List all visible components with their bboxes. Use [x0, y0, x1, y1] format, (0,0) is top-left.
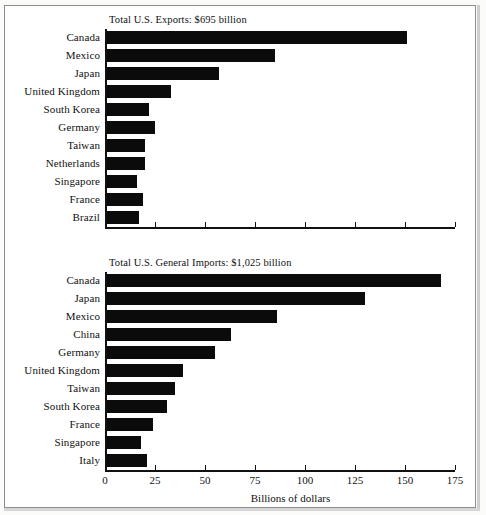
exports-category-label: Taiwan [4, 137, 100, 154]
exports-category-label: Canada [4, 29, 100, 46]
imports-category-label: United Kingdom [4, 362, 100, 379]
bar-track [105, 29, 460, 46]
x-axis-tick-label: 75 [250, 474, 261, 487]
x-axis-tick-label: 50 [200, 474, 211, 487]
bar-row: South Korea [4, 101, 476, 118]
x-axis-tick-label: 100 [297, 474, 314, 487]
bar-track [105, 380, 460, 397]
bar-track [105, 272, 460, 289]
imports-bar[interactable] [105, 382, 175, 395]
exports-category-label: Brazil [4, 209, 100, 226]
x-axis-tick [105, 222, 106, 227]
imports-category-label: Germany [4, 344, 100, 361]
exports-category-label: France [4, 191, 100, 208]
bar-track [105, 452, 460, 469]
x-axis-tick [455, 222, 456, 227]
exports-category-label: Germany [4, 119, 100, 136]
imports-category-label: South Korea [4, 398, 100, 415]
imports-category-label: Italy [4, 452, 100, 469]
bar-track [105, 47, 460, 64]
imports-bar[interactable] [105, 364, 183, 377]
imports-bar[interactable] [105, 436, 141, 449]
x-axis-tick [305, 465, 306, 470]
bar-row: Germany [4, 344, 476, 361]
bar-track [105, 344, 460, 361]
exports-bar[interactable] [105, 103, 149, 116]
imports-category-label: Mexico [4, 308, 100, 325]
exports-category-label: Singapore [4, 173, 100, 190]
x-axis-tick [105, 465, 106, 470]
exports-bar[interactable] [105, 193, 143, 206]
exports-bar[interactable] [105, 211, 139, 224]
bar-row: United Kingdom [4, 362, 476, 379]
x-axis-tick [355, 465, 356, 470]
imports-chart-title: Total U.S. General Imports: $1,025 billi… [109, 256, 292, 269]
bar-track [105, 83, 460, 100]
y-axis-line [105, 29, 107, 227]
x-axis-tick-label: 175 [447, 474, 464, 487]
bar-row: China [4, 326, 476, 343]
imports-bar[interactable] [105, 454, 147, 467]
bar-row: France [4, 416, 476, 433]
bar-track [105, 137, 460, 154]
bar-track [105, 308, 460, 325]
x-axis-tick [355, 222, 356, 227]
x-axis-tick [205, 222, 206, 227]
imports-bar[interactable] [105, 346, 215, 359]
x-axis-tick-label: 125 [347, 474, 364, 487]
exports-bar[interactable] [105, 85, 171, 98]
x-axis-tick [305, 222, 306, 227]
bar-row: Netherlands [4, 155, 476, 172]
exports-category-label: Japan [4, 65, 100, 82]
page-shadow-right [477, 5, 480, 508]
bar-row: Germany [4, 119, 476, 136]
imports-category-label: France [4, 416, 100, 433]
bar-row: Japan [4, 65, 476, 82]
imports-plot-area: CanadaJapanMexicoChinaGermanyUnited King… [4, 272, 476, 470]
exports-chart-title: Total U.S. Exports: $695 billion [109, 13, 247, 26]
bar-track [105, 191, 460, 208]
bar-track [105, 119, 460, 136]
exports-bar[interactable] [105, 121, 155, 134]
bar-track [105, 155, 460, 172]
x-axis-tick [405, 465, 406, 470]
bar-row: Japan [4, 290, 476, 307]
x-axis-tick [405, 222, 406, 227]
x-axis-tick [155, 222, 156, 227]
imports-bar[interactable] [105, 328, 231, 341]
exports-bar[interactable] [105, 157, 145, 170]
exports-category-label: United Kingdom [4, 83, 100, 100]
exports-bar[interactable] [105, 175, 137, 188]
imports-category-label: Canada [4, 272, 100, 289]
x-axis-tick-label: 0 [102, 474, 108, 487]
exports-category-label: Mexico [4, 47, 100, 64]
imports-category-label: Japan [4, 290, 100, 307]
bar-track [105, 362, 460, 379]
imports-bar[interactable] [105, 310, 277, 323]
x-axis-tick [455, 465, 456, 470]
exports-bar[interactable] [105, 49, 275, 62]
bar-row: Canada [4, 29, 476, 46]
imports-bar[interactable] [105, 274, 441, 287]
imports-bar[interactable] [105, 418, 153, 431]
bar-track [105, 326, 460, 343]
exports-bar[interactable] [105, 67, 219, 80]
bar-track [105, 65, 460, 82]
bar-row: United Kingdom [4, 83, 476, 100]
bar-track [105, 416, 460, 433]
scanned-page: Total U.S. Exports: $695 billion CanadaM… [0, 0, 486, 515]
imports-bar[interactable] [105, 292, 365, 305]
imports-x-axis: 0255075100125150175 [105, 470, 455, 471]
x-axis-tick-label: 25 [150, 474, 161, 487]
x-axis-line [105, 227, 455, 229]
imports-category-label: Singapore [4, 434, 100, 451]
bar-track [105, 209, 460, 226]
x-axis-tick [205, 465, 206, 470]
exports-bar[interactable] [105, 31, 407, 44]
exports-category-label: South Korea [4, 101, 100, 118]
exports-bar[interactable] [105, 139, 145, 152]
x-axis-title: Billions of dollars [4, 492, 476, 504]
x-axis-tick [255, 465, 256, 470]
imports-bar[interactable] [105, 400, 167, 413]
y-axis-line [105, 272, 107, 470]
